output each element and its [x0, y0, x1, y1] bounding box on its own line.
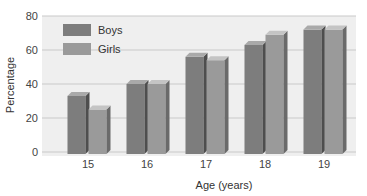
- legend-label-girls: Girls: [98, 43, 121, 55]
- y-axis-title: Percentage: [4, 57, 16, 113]
- x-tick-label: 19: [318, 158, 330, 170]
- x-tick-label: 18: [259, 158, 271, 170]
- bar-girls-18: [266, 31, 288, 154]
- bar-boys-15: [68, 92, 90, 154]
- y-axis-ticks: 020406080: [26, 10, 38, 158]
- bar-boys-16: [127, 80, 149, 154]
- bar-boys-17: [186, 53, 208, 154]
- x-tick-label: 15: [82, 158, 94, 170]
- legend-swatch-girls: [63, 43, 91, 55]
- bar-girls-15: [89, 106, 111, 155]
- bar-girls-17: [207, 56, 229, 154]
- bar-boys-18: [245, 41, 267, 154]
- bar-girls-19: [325, 26, 347, 154]
- y-tick-label: 0: [32, 146, 38, 158]
- y-tick-label: 60: [26, 44, 38, 56]
- y-tick-label: 40: [26, 78, 38, 90]
- y-tick-label: 20: [26, 112, 38, 124]
- x-tick-label: 17: [200, 158, 212, 170]
- bar-girls-16: [148, 80, 170, 154]
- x-axis-ticks: 1516171819: [82, 158, 330, 170]
- legend-label-boys: Boys: [98, 24, 123, 36]
- x-axis-title: Age (years): [196, 179, 253, 191]
- legend-swatch-boys: [63, 24, 91, 36]
- bar-boys-19: [304, 26, 326, 154]
- bar-chart: 020406080 1516171819 Boys Girls Percenta…: [0, 0, 367, 196]
- y-tick-label: 80: [26, 10, 38, 22]
- x-tick-label: 16: [141, 158, 153, 170]
